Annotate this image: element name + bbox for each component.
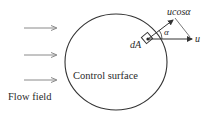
label-flow-field: Flow field	[8, 91, 52, 102]
label-normal-component: ucosα	[167, 6, 191, 17]
flow-control-surface-diagram: ucosα α u dA Control surface Flow field	[0, 0, 212, 113]
projection-line	[175, 18, 190, 37]
label-control-surface: Control surface	[73, 70, 138, 81]
flow-arrows	[24, 28, 56, 80]
label-area-element: dA	[130, 39, 142, 50]
control-surface-circle	[65, 14, 167, 110]
label-velocity: u	[195, 33, 200, 44]
normal-component-vector	[148, 20, 173, 39]
label-angle: α	[164, 27, 169, 37]
